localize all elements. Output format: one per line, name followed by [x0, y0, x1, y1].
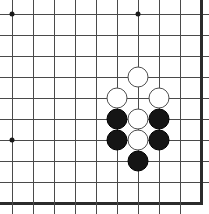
grid-line-vertical-3: [75, 0, 76, 214]
grid-line-horizontal-9: [0, 202, 203, 205]
grid-line-vertical-2: [54, 0, 55, 214]
star-point-1: [136, 12, 141, 17]
grid-line-vertical-1: [33, 0, 34, 214]
grid-line-horizontal-6: [0, 140, 209, 141]
white-stone-c7-r4[interactable]: [149, 88, 170, 109]
grid-line-horizontal-4: [0, 98, 209, 99]
grid-line-vertical-6: [138, 0, 139, 214]
white-stone-c6-r3[interactable]: [128, 67, 149, 88]
black-stone-c6-r7[interactable]: [128, 151, 149, 172]
star-point-2: [10, 138, 15, 143]
white-stone-c6-r5[interactable]: [128, 109, 149, 130]
grid-line-horizontal-7: [0, 161, 209, 162]
go-board[interactable]: [0, 0, 209, 214]
grid-line-horizontal-8: [0, 182, 209, 183]
white-stone-c5-r4[interactable]: [107, 88, 128, 109]
black-stone-c7-r6[interactable]: [149, 130, 170, 151]
grid-line-vertical-8: [180, 0, 181, 214]
black-stone-c5-r6[interactable]: [107, 130, 128, 151]
grid-line-horizontal-1: [0, 35, 209, 36]
white-stone-c6-r6[interactable]: [128, 130, 149, 151]
grid-line-horizontal-5: [0, 119, 209, 120]
black-stone-c5-r5[interactable]: [107, 109, 128, 130]
star-point-0: [10, 12, 15, 17]
grid-line-vertical-9: [200, 0, 203, 205]
grid-line-vertical-0: [12, 0, 13, 214]
grid-line-horizontal-0: [0, 14, 209, 15]
black-stone-c7-r5[interactable]: [149, 109, 170, 130]
grid-line-horizontal-3: [0, 77, 209, 78]
grid-line-horizontal-2: [0, 56, 209, 57]
grid-line-vertical-4: [96, 0, 97, 214]
